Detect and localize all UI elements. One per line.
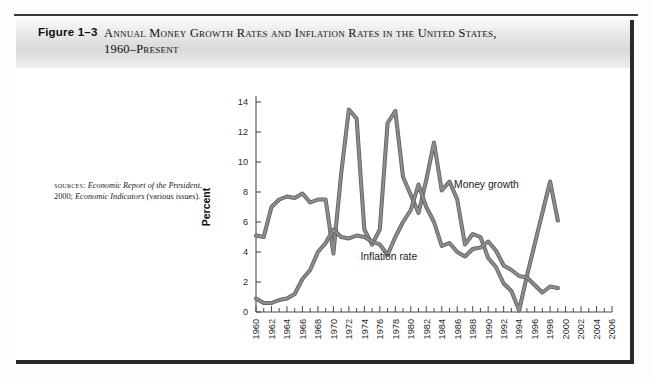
x-tick-label: 1964: [282, 319, 292, 339]
series-2-outline: [256, 185, 558, 304]
figure-page: Figure 1–3Annual Money Growth Rates and …: [0, 0, 653, 378]
sources-label: sources:: [54, 181, 86, 190]
y-axis-title: Percent: [200, 187, 212, 226]
x-tick-label: 2004: [592, 319, 602, 339]
x-tick-label: 2000: [561, 319, 571, 339]
y-tick-label: 2: [243, 277, 248, 287]
x-tick-label: 1990: [484, 319, 494, 339]
figure-title: Annual Money Growth Rates and Inflation …: [104, 26, 574, 57]
x-tick-label: 2002: [576, 319, 586, 339]
y-tick-label: 10: [238, 157, 248, 167]
x-tick-label: 1994: [514, 319, 524, 339]
x-tick-label: 1968: [313, 319, 323, 339]
figure-number: Figure 1–3: [38, 26, 104, 38]
x-tick-label: 1970: [329, 319, 339, 339]
y-tick-label: 6: [243, 217, 248, 227]
x-tick-label: 1986: [453, 319, 463, 339]
series-label-1: Money growth: [454, 179, 519, 190]
x-tick-label: 1982: [422, 319, 432, 339]
figure-header: Figure 1–3Annual Money Growth Rates and …: [38, 26, 618, 57]
x-tick-label: 1966: [298, 319, 308, 339]
chart-area: 0246810121419601962196419661968197019721…: [184, 70, 624, 358]
figure-box: Figure 1–3Annual Money Growth Rates and …: [16, 20, 634, 364]
line-chart: 0246810121419601962196419661968197019721…: [184, 70, 624, 358]
x-tick-label: 1978: [391, 319, 401, 339]
x-tick-label: 1960: [251, 319, 261, 339]
y-tick-label: 8: [243, 187, 248, 197]
figure-header-band: Figure 1–3Annual Money Growth Rates and …: [16, 20, 630, 68]
x-tick-label: 1976: [375, 319, 385, 339]
x-tick-label: 1972: [344, 319, 354, 339]
x-tick-label: 1996: [530, 319, 540, 339]
sources-italic-4: Indicators: [110, 192, 144, 201]
sources-italic-1: Economic Report of the: [88, 181, 167, 190]
x-tick-label: 1992: [499, 319, 509, 339]
x-tick-label: 1962: [267, 319, 277, 339]
x-tick-label: 1988: [468, 319, 478, 339]
x-tick-label: 1974: [360, 319, 370, 339]
y-tick-label: 12: [238, 127, 248, 137]
y-tick-label: 0: [243, 307, 248, 317]
sources-italic-3: Economic: [75, 192, 108, 201]
figure-title-line2: 1960–Present: [104, 42, 574, 58]
series-label-2: Inflation rate: [360, 251, 417, 262]
figure-title-line1: Annual Money Growth Rates and Inflation …: [104, 26, 496, 40]
x-tick-label: 2006: [607, 319, 617, 339]
y-tick-label: 14: [238, 97, 248, 107]
top-rule: [14, 14, 638, 16]
x-tick-label: 1984: [437, 319, 447, 339]
y-tick-label: 4: [243, 247, 248, 257]
x-tick-label: 1998: [545, 319, 555, 339]
x-tick-label: 1980: [406, 319, 416, 339]
